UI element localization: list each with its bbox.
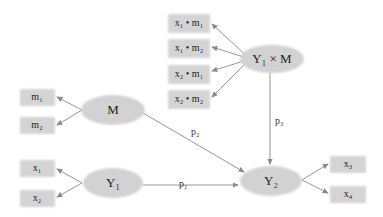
svg-text:x₄: x₄ xyxy=(344,188,353,199)
indicator-m1: m₁ xyxy=(20,89,55,106)
svg-text:x₂ • m₂: x₂ • m₂ xyxy=(175,93,203,104)
indicator-x2: x₂ xyxy=(20,190,55,207)
latent-y2: Y₂ xyxy=(240,166,302,196)
svg-text:Y₁ × M: Y₁ × M xyxy=(252,51,292,66)
indicator-x1m1: x₁ • m₁ xyxy=(168,14,210,33)
path-label-p1: p₁ xyxy=(179,178,188,189)
svg-text:x₁: x₁ xyxy=(33,162,42,173)
indicator-x2m2: x₂ • m₂ xyxy=(168,90,210,109)
latent-m: M xyxy=(81,95,145,125)
svg-text:x₁ • m₁: x₁ • m₁ xyxy=(175,17,203,28)
svg-text:Y₂: Y₂ xyxy=(264,173,278,188)
svg-text:x₃: x₃ xyxy=(344,158,353,169)
indicator-x1: x₁ xyxy=(20,160,55,177)
path-label-p3: p₃ xyxy=(275,115,284,126)
indicator-x4: x₄ xyxy=(330,186,366,203)
indicator-x2m1: x₂ • m₁ xyxy=(168,65,210,84)
path-diagram: p₁ p₂ p₃ x₁ • m₁ x₁ • m₂ x₂ • m₁ x₂ • m₂… xyxy=(0,0,383,217)
latent-y1xm: Y₁ × M xyxy=(240,45,304,73)
svg-text:m₁: m₁ xyxy=(31,91,42,102)
svg-text:x₂ • m₁: x₂ • m₁ xyxy=(175,68,203,79)
indicator-m2: m₂ xyxy=(20,117,55,134)
svg-text:x₁ • m₂: x₁ • m₂ xyxy=(175,42,203,53)
indicator-x3: x₃ xyxy=(330,156,366,173)
svg-text:M: M xyxy=(107,102,119,117)
path-label-p2: p₂ xyxy=(191,126,200,137)
latent-y1: Y₁ xyxy=(83,168,143,198)
indicator-x1m2: x₁ • m₂ xyxy=(168,39,210,58)
svg-text:Y₁: Y₁ xyxy=(106,175,120,190)
svg-text:m₂: m₂ xyxy=(31,119,42,130)
svg-text:x₂: x₂ xyxy=(33,192,42,203)
